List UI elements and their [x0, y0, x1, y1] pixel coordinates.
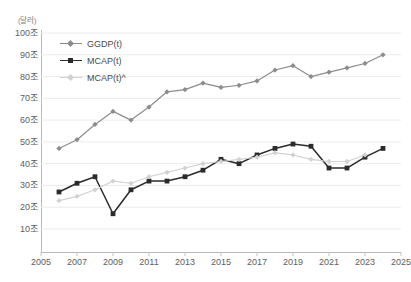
x-tick-label: 2009	[103, 258, 123, 267]
y-tick-label: 70조	[2, 94, 38, 103]
y-tick-label: 80조	[2, 72, 38, 81]
legend-label-mcap-hat: MCAP(t)^	[87, 73, 126, 83]
data-point-marker	[237, 161, 242, 166]
y-tick-label: 50조	[2, 137, 38, 146]
legend-swatch-mcap-hat	[60, 73, 82, 83]
x-tick-label: 2017	[247, 258, 267, 267]
data-point-marker	[92, 187, 97, 192]
y-tick-label: 10조	[2, 225, 38, 234]
data-point-marker	[93, 174, 98, 179]
data-point-marker	[290, 152, 295, 157]
data-point-marker	[236, 157, 241, 162]
data-point-marker	[291, 142, 296, 147]
x-tick-label: 2005	[31, 258, 51, 267]
x-tick-label: 2007	[67, 258, 87, 267]
series-line	[59, 144, 383, 214]
data-point-marker	[327, 166, 332, 171]
data-point-marker	[57, 190, 62, 195]
chart-legend: GGDP(t) MCAP(t) MCAP(t)^	[60, 36, 126, 87]
x-tick-label: 2025	[391, 258, 411, 267]
data-point-marker	[56, 146, 61, 151]
x-tick-label: 2023	[355, 258, 375, 267]
data-point-marker	[345, 166, 350, 171]
legend-item-mcap: MCAP(t)	[60, 53, 126, 68]
y-tick-label: 60조	[2, 116, 38, 125]
data-point-marker	[272, 67, 277, 72]
data-point-marker	[200, 80, 205, 85]
data-point-marker	[381, 146, 386, 151]
series-line	[59, 153, 365, 201]
legend-swatch-mcap	[60, 56, 82, 66]
legend-swatch-ggdp	[60, 39, 82, 49]
x-tick-label: 2011	[139, 258, 158, 267]
data-point-marker	[147, 179, 152, 184]
legend-label-ggdp: GGDP(t)	[87, 39, 122, 49]
data-point-marker	[183, 174, 188, 179]
x-tick-label: 2019	[283, 258, 303, 267]
data-point-marker	[273, 146, 278, 151]
legend-item-ggdp: GGDP(t)	[60, 36, 126, 51]
y-axis-tick-labels: 10조20조30조40조50조60조70조80조90조100조	[0, 0, 38, 282]
data-point-marker	[201, 168, 206, 173]
data-point-marker	[344, 65, 349, 70]
x-axis-tick-labels: 2005200720092011201320152017201920212023…	[0, 258, 406, 274]
legend-label-mcap: MCAP(t)	[87, 56, 122, 66]
data-point-marker	[110, 178, 115, 183]
data-point-marker	[75, 181, 80, 186]
legend-item-mcap-hat: MCAP(t)^	[60, 70, 126, 85]
data-point-marker	[308, 157, 313, 162]
data-point-marker	[236, 83, 241, 88]
data-point-marker	[380, 52, 385, 57]
data-point-marker	[362, 61, 367, 66]
data-point-marker	[272, 150, 277, 155]
x-tick-label: 2021	[319, 258, 339, 267]
data-point-marker	[182, 165, 187, 170]
data-point-marker	[326, 70, 331, 75]
x-tick-label: 2013	[175, 258, 195, 267]
data-point-marker	[290, 63, 295, 68]
y-tick-label: 40조	[2, 159, 38, 168]
y-tick-label: 20조	[2, 203, 38, 212]
y-tick-label: 30조	[2, 181, 38, 190]
y-tick-label: 100조	[2, 29, 38, 38]
data-point-marker	[74, 194, 79, 199]
data-point-marker	[200, 161, 205, 166]
data-point-marker	[254, 78, 259, 83]
data-point-marker	[308, 74, 313, 79]
data-point-marker	[146, 174, 151, 179]
data-point-marker	[309, 144, 314, 149]
x-tick-label: 2015	[211, 258, 231, 267]
data-point-marker	[111, 211, 116, 216]
data-point-marker	[129, 187, 134, 192]
data-point-marker	[218, 85, 223, 90]
data-point-marker	[165, 179, 170, 184]
data-point-marker	[56, 198, 61, 203]
data-point-marker	[182, 87, 187, 92]
y-tick-label: 90조	[2, 50, 38, 59]
data-point-marker	[164, 170, 169, 175]
